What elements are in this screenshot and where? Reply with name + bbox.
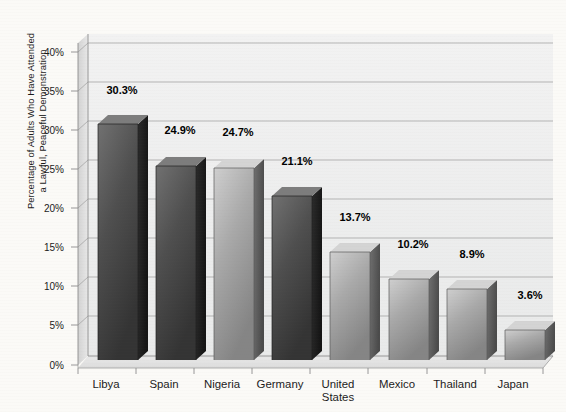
bar-thailand bbox=[447, 280, 497, 360]
x-tick-label-thailand: Thailand bbox=[426, 378, 484, 391]
bar-value-label-spain: 24.9% bbox=[164, 124, 195, 136]
chart-canvas bbox=[0, 0, 566, 412]
y-tick-label: 5% bbox=[22, 320, 64, 331]
x-tick-label-spain: Spain bbox=[135, 378, 193, 391]
bar-japan bbox=[505, 321, 555, 360]
bar-value-label-nigeria: 24.7% bbox=[222, 126, 253, 138]
y-tick-marks bbox=[71, 52, 78, 365]
bar-value-label-mexico: 10.2% bbox=[397, 238, 428, 250]
y-tick-label: 10% bbox=[22, 281, 64, 292]
y-tick-label: 0% bbox=[22, 360, 64, 371]
y-tick-label: 40% bbox=[22, 47, 64, 58]
bar-spain bbox=[156, 157, 206, 360]
bar-mexico bbox=[389, 270, 439, 360]
x-tick-label-united-states: United States bbox=[309, 378, 367, 404]
bar-value-label-thailand: 8.9% bbox=[459, 248, 484, 260]
x-tick-label-mexico: Mexico bbox=[368, 378, 426, 391]
bar-value-label-germany: 21.1% bbox=[281, 155, 312, 167]
y-tick-label: 20% bbox=[22, 203, 64, 214]
y-axis-title: Percentage of Adults Who Have Attended a… bbox=[20, 6, 54, 236]
x-tick-label-nigeria: Nigeria bbox=[193, 378, 251, 391]
y-axis-title-line1: Percentage of Adults Who Have Attended bbox=[25, 33, 37, 209]
y-tick-label: 15% bbox=[22, 242, 64, 253]
bar-germany bbox=[272, 187, 322, 360]
bar-chart: Percentage of Adults Who Have Attended a… bbox=[0, 0, 566, 412]
bar-value-label-united-states: 13.7% bbox=[339, 211, 370, 223]
bar-united-states bbox=[330, 243, 380, 360]
x-tick-label-germany: Germany bbox=[251, 378, 309, 391]
y-tick-label: 30% bbox=[22, 125, 64, 136]
y-tick-label: 35% bbox=[22, 86, 64, 97]
x-tick-label-libya: Libya bbox=[77, 378, 135, 391]
bar-libya bbox=[98, 115, 148, 360]
bar-value-label-japan: 3.6% bbox=[517, 289, 542, 301]
y-tick-label: 25% bbox=[22, 164, 64, 175]
bar-value-label-libya: 30.3% bbox=[106, 84, 137, 96]
x-tick-label-japan: Japan bbox=[484, 378, 542, 391]
bar-nigeria bbox=[214, 159, 264, 360]
x-tick-marks bbox=[78, 368, 543, 374]
